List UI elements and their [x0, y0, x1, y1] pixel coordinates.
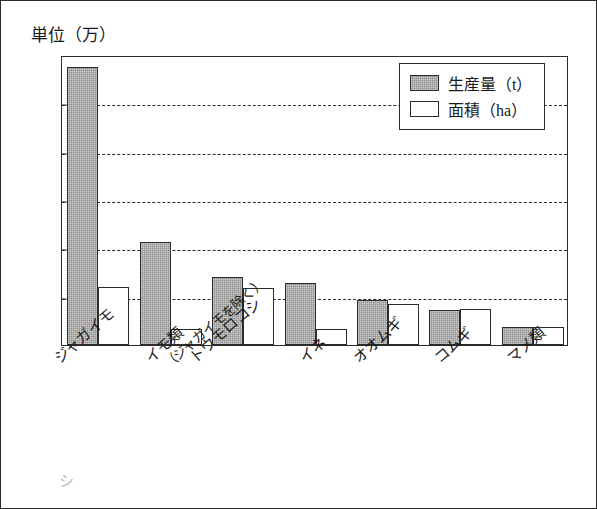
- corner-smudge-mark: シ: [59, 469, 75, 485]
- bar-group: [429, 309, 491, 345]
- bar-group: [212, 277, 274, 345]
- legend-swatch-area-icon: [410, 101, 439, 117]
- bar-area: [243, 288, 274, 345]
- bar-production: [429, 310, 460, 345]
- legend-label-production: 生産量（t）: [448, 71, 532, 95]
- bar-area: [533, 327, 564, 345]
- bar-area: [98, 287, 129, 345]
- bar-group: [67, 67, 129, 345]
- bar-area: [316, 329, 347, 345]
- bar-production: [67, 67, 98, 345]
- legend-label-area: 面積（ha）: [448, 97, 527, 121]
- bar-production: [357, 300, 388, 345]
- bar-area: [171, 329, 202, 345]
- bar-production: [285, 283, 316, 345]
- bar-production: [502, 327, 533, 345]
- y-axis: 020406080100120: [1, 1, 61, 509]
- legend-item-production: 生産量（t）: [410, 70, 532, 96]
- bar-production: [212, 277, 243, 345]
- bar-group: [285, 283, 347, 345]
- bar-group: [502, 327, 564, 345]
- bar-area: [388, 304, 419, 345]
- legend-item-area: 面積（ha）: [410, 96, 532, 122]
- chart-page: 単位（万） 020406080100120 生産量（t） 面積（ha） ジャガイ…: [0, 0, 597, 509]
- bar-group: [357, 300, 419, 345]
- bar-production: [140, 242, 171, 345]
- chart-legend: 生産量（t） 面積（ha）: [399, 63, 545, 130]
- legend-swatch-production-icon: [410, 75, 439, 91]
- bar-group: [140, 242, 202, 345]
- bar-area: [460, 309, 491, 345]
